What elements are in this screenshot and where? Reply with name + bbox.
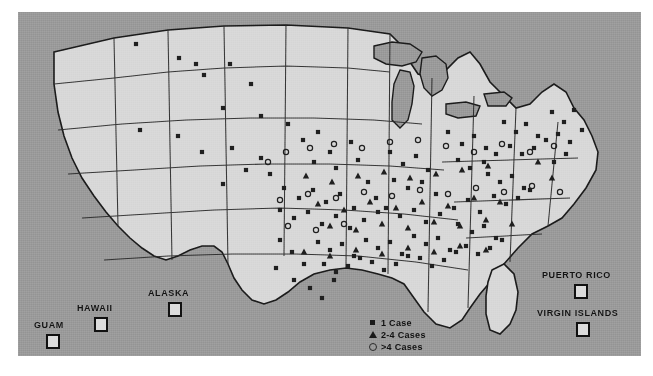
inset-label-hawaii: HAWAII <box>77 303 113 313</box>
case-dot <box>376 210 380 214</box>
case-dot <box>544 138 548 142</box>
case-dot <box>340 242 344 246</box>
case-dot <box>430 264 434 268</box>
case-dot <box>500 238 504 242</box>
case-dot <box>552 160 556 164</box>
case-dot <box>364 238 368 242</box>
case-dot <box>324 200 328 204</box>
case-dot <box>228 62 232 66</box>
case-dot <box>244 168 248 172</box>
case-dot <box>466 198 470 202</box>
case-dot <box>456 158 460 162</box>
case-dot <box>484 146 488 150</box>
case-dot <box>268 172 272 176</box>
case-dot <box>406 254 410 258</box>
inset-box-guam[interactable] <box>46 334 60 349</box>
case-dot <box>259 114 263 118</box>
case-dot <box>384 206 388 210</box>
case-dot <box>488 246 492 250</box>
case-dot <box>454 250 458 254</box>
case-dot <box>401 162 405 166</box>
case-dot <box>460 142 464 146</box>
case-dot <box>134 42 138 46</box>
inset-label-puerto-rico: PUERTO RICO <box>542 270 611 280</box>
case-dot <box>568 140 572 144</box>
legend-item-1-case: 1 Case <box>367 317 453 328</box>
case-dot <box>278 208 282 212</box>
case-dot <box>278 238 282 242</box>
case-dot <box>382 268 386 272</box>
case-dot <box>230 146 234 150</box>
case-dot <box>482 224 486 228</box>
case-dot <box>221 106 225 110</box>
case-dot <box>424 220 428 224</box>
case-dot <box>274 266 278 270</box>
case-dot <box>292 278 296 282</box>
case-dot <box>494 152 498 156</box>
case-dot <box>394 262 398 266</box>
inset-label-guam: GUAM <box>34 320 64 330</box>
case-dot <box>362 218 366 222</box>
case-dot <box>328 248 332 252</box>
case-dot <box>332 278 336 282</box>
case-dot <box>349 140 353 144</box>
legend-label-1-case: 1 Case <box>381 318 412 328</box>
inset-box-virgin-islands[interactable] <box>576 322 590 337</box>
case-dot <box>508 144 512 148</box>
case-dot <box>536 134 540 138</box>
case-dot <box>562 120 566 124</box>
case-dot <box>412 208 416 212</box>
case-dot <box>302 262 306 266</box>
case-dot <box>398 214 402 218</box>
case-dot <box>472 134 476 138</box>
case-dot <box>306 210 310 214</box>
case-dot <box>316 130 320 134</box>
case-dot <box>316 240 320 244</box>
case-dot <box>438 212 442 216</box>
case-dot <box>478 210 482 214</box>
case-dot <box>498 180 502 184</box>
case-dot <box>502 120 506 124</box>
case-dot <box>556 132 560 136</box>
square-icon <box>367 317 378 328</box>
case-dot <box>200 150 204 154</box>
case-dot <box>328 150 332 154</box>
inset-box-alaska[interactable] <box>168 302 182 317</box>
case-dot <box>448 248 452 252</box>
lake-erie <box>446 102 480 118</box>
legend-label-2-4-cases: 2-4 Cases <box>381 330 426 340</box>
case-dot <box>366 180 370 184</box>
case-dot <box>572 108 576 112</box>
case-dot <box>290 250 294 254</box>
case-dot <box>177 56 181 60</box>
land-layer <box>54 25 598 334</box>
case-dot <box>322 262 326 266</box>
inset-label-alaska: ALASKA <box>148 288 189 298</box>
case-dot <box>346 264 350 268</box>
case-dot <box>406 186 410 190</box>
case-dot <box>476 252 480 256</box>
case-dot <box>400 252 404 256</box>
case-dot <box>320 296 324 300</box>
case-dot <box>580 128 584 132</box>
case-dot <box>320 222 324 226</box>
inset-box-hawaii[interactable] <box>94 317 108 332</box>
inset-label-virgin-islands: VIRGIN ISLANDS <box>537 308 618 318</box>
case-dot <box>510 174 514 178</box>
case-dot <box>311 188 315 192</box>
case-dot <box>352 254 356 258</box>
case-dot <box>352 206 356 210</box>
case-dot <box>520 152 524 156</box>
case-dot <box>424 242 428 246</box>
map-legend: 1 Case 2-4 Cases >4 Cases <box>367 317 453 353</box>
case-dot <box>420 180 424 184</box>
case-dot <box>334 214 338 218</box>
lake-ontario <box>484 92 512 106</box>
legend-item-2-4-cases: 2-4 Cases <box>367 329 453 340</box>
case-dot <box>194 62 198 66</box>
case-dot <box>334 166 338 170</box>
inset-box-puerto-rico[interactable] <box>574 284 588 299</box>
case-dot <box>308 286 312 290</box>
map-frame[interactable]: GUAM HAWAII ALASKA PUERTO RICO VIRGIN IS… <box>18 12 641 356</box>
case-dot <box>482 160 486 164</box>
